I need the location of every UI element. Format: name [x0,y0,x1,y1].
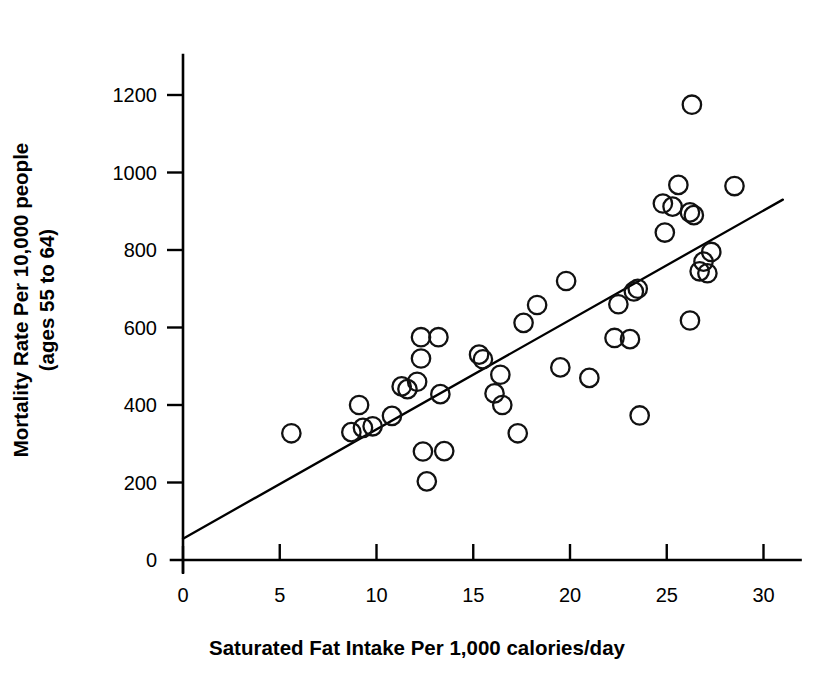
data-point [725,177,743,195]
data-point [474,350,492,368]
data-point [491,366,509,384]
y-tick-label: 0 [0,549,157,572]
data-point [412,328,430,346]
data-point [342,423,360,441]
y-tick-label: 1200 [0,84,157,107]
data-point [656,223,674,241]
x-axis-title: Saturated Fat Intake Per 1,000 calories/… [0,636,834,660]
y-axis-title: Mortality Rate Per 10,000 people (ages 5… [8,143,60,457]
scatter-plot-figure: 020040060080010001200 051015202530 Morta… [0,0,834,689]
data-point [609,295,627,313]
axes [167,55,801,574]
x-tick-label: 0 [177,584,188,607]
data-point [418,472,436,490]
x-tick-label: 25 [656,584,678,607]
x-tick-label: 15 [462,584,484,607]
x-tick-label: 30 [752,584,774,607]
data-point [557,272,575,290]
data-point [350,396,368,414]
y-axis-title-line1: Mortality Rate Per 10,000 people [9,143,32,457]
data-point [282,424,300,442]
x-tick-label: 10 [365,584,387,607]
data-point [683,95,701,113]
data-points [282,95,744,490]
data-point [509,424,527,442]
y-tick-label: 200 [0,471,157,494]
data-point [435,442,453,460]
data-point [412,349,430,367]
data-point [470,345,488,363]
data-point [669,176,687,194]
data-point [414,442,432,460]
data-point [630,406,648,424]
data-point [681,311,699,329]
x-tick-label: 5 [274,584,285,607]
data-point [580,369,598,387]
data-point [551,358,569,376]
data-point [429,328,447,346]
y-axis-title-line2: (ages 55 to 64) [34,143,60,457]
data-point [528,296,546,314]
x-tick-label: 20 [559,584,581,607]
data-point [514,314,532,332]
